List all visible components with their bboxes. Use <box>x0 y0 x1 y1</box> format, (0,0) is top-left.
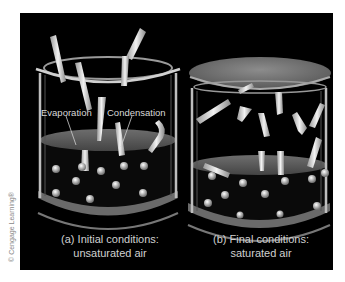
caption-b-line1: (b) Final conditions: <box>201 232 321 246</box>
figure-panel: Evaporation Condensation (a) Initial con… <box>20 13 333 270</box>
evaporation-label: Evaporation <box>41 107 92 118</box>
caption-a: (a) Initial conditions: unsaturated air <box>50 232 170 260</box>
beaker-a <box>36 28 180 229</box>
caption-b: (b) Final conditions: saturated air <box>201 232 321 260</box>
caption-a-line2: unsaturated air <box>50 246 170 260</box>
caption-b-line2: saturated air <box>201 246 321 260</box>
caption-a-line1: (a) Initial conditions: <box>50 232 170 246</box>
copyright-credit: © Cengage Learning® <box>8 185 18 269</box>
beaker-b <box>188 57 331 241</box>
condensation-label: Condensation <box>107 107 166 118</box>
